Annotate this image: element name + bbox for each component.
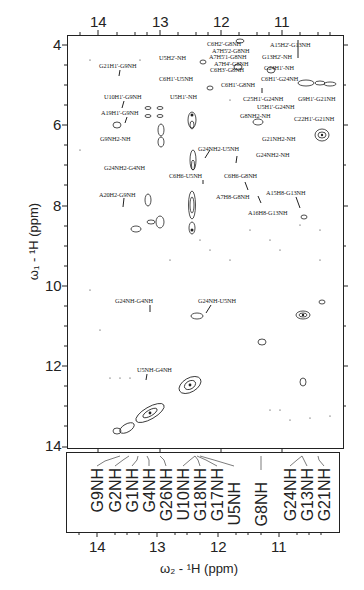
annotation-label: G9NH2-NH (100, 135, 130, 142)
annotation-label: U5H1'-G24NH (257, 103, 294, 110)
annotation-label: G24NH2-NH (256, 151, 289, 158)
annotation-label: C6H6-U5NH (169, 172, 202, 179)
annotation-label: U5H1'-NH (170, 93, 197, 100)
annotation-label: G13H2'-NH (262, 53, 292, 60)
annotation-label: C6H6-G8NH (224, 172, 257, 179)
annotation-label: A20H2-G9NH (99, 191, 135, 198)
assignment-label: G17NH (209, 468, 226, 521)
annotation-label: U5NH-G4NH (137, 366, 172, 373)
annotation-label: U5H2'-NH (159, 54, 186, 61)
assignment-label: G21NH (316, 468, 333, 521)
annotation-label: G24NH-U5NH (198, 297, 236, 304)
annotation-label: A7H5'1-G8NH (209, 53, 246, 60)
annotation-label: G24NH2-U5NH (198, 145, 239, 152)
assignment-label: G26NH (158, 468, 175, 521)
annotation-label: C6H1'-G8NH (221, 81, 255, 88)
annotation-label: C25H1'-G24NH (243, 95, 283, 102)
assignment-label: G4NH (141, 468, 158, 512)
annotation-label: C6H1'-U5NH (159, 75, 193, 82)
assignment-label: G24NH (282, 468, 299, 521)
annotation-label: C6H1'-G24NH (261, 75, 298, 82)
annotation-label: G24NH2-G4NH (104, 164, 145, 171)
assignment-label: U5NH (226, 482, 243, 526)
annotation-label: A15H8-G13NH (266, 189, 305, 196)
annotation-label: A19H1'-G9NH (101, 109, 138, 116)
annotation-label: C6H3'-G8NH (210, 66, 244, 73)
annotation-label: G24NH-G4NH (115, 297, 153, 304)
annotation-label: G8NH2-NH (240, 112, 270, 119)
assignment-label: G2NH (107, 468, 124, 512)
annotation-label: A15H2'-G13NH (270, 41, 311, 48)
annotation-label: U10H1'-G9NH (104, 93, 141, 100)
annotation-label: G21NH2-NH (262, 135, 295, 142)
assignment-label: G8NH (253, 482, 270, 526)
assignment-label: U10NH (175, 468, 192, 520)
assignment-label: G1NH (124, 468, 141, 512)
annotation-label: G9H1'-G21NH (298, 95, 335, 102)
annotation-label: A16H8-G13NH (248, 209, 287, 216)
assignment-label: G18NH (192, 468, 209, 521)
assignment-label: G9NH (89, 468, 106, 512)
annotation-label: G21H1'-G9NH (99, 62, 136, 69)
annotation-label: A7H8-G8NH (216, 193, 249, 200)
annotation-label: G24H1'-NH (264, 64, 294, 71)
annotation-label: C6H2'-G8NH (207, 40, 241, 47)
annotation-label: C22H1'-G21NH (294, 115, 334, 122)
assignment-label: G13NH (299, 468, 316, 521)
